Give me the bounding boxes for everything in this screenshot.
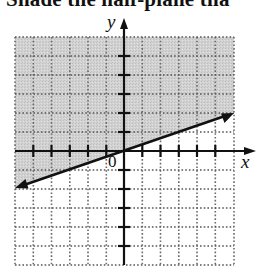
coordinate-graph: y x 0 xyxy=(0,0,267,274)
y-axis-label: y xyxy=(105,11,116,32)
y-axis-arrow-icon xyxy=(120,18,128,29)
line-arrow-upper-right-icon xyxy=(221,113,234,123)
origin-label: 0 xyxy=(108,152,117,171)
x-axis-label: x xyxy=(240,151,250,172)
